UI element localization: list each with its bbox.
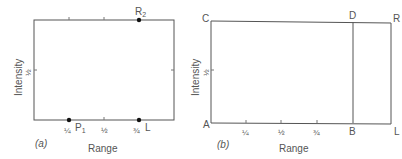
label-b: B bbox=[349, 126, 356, 137]
xtick-quarter: ¼ bbox=[64, 126, 71, 135]
label-l-b: L bbox=[394, 126, 400, 137]
xlabel-b: Range bbox=[279, 143, 309, 154]
point-l bbox=[137, 118, 141, 122]
xtick-half-b: ½ bbox=[278, 128, 285, 137]
label-l: L bbox=[145, 122, 151, 133]
panel-a-frame bbox=[34, 20, 174, 120]
point-r2 bbox=[137, 18, 141, 22]
panel-b-frame bbox=[211, 21, 391, 124]
ylabel-a: Intensity bbox=[13, 59, 24, 96]
point-p1 bbox=[67, 118, 71, 122]
xtick-three-quarter-b: ¾ bbox=[313, 128, 320, 137]
label-d: D bbox=[349, 10, 356, 21]
panel-a: R2 ¼ P1 ½ ¾ L Range (a) Intensity ½ bbox=[13, 6, 174, 154]
caption-b: (b) bbox=[217, 139, 229, 150]
label-a: A bbox=[203, 119, 210, 130]
label-c: C bbox=[202, 13, 209, 24]
xtick-quarter-b: ¼ bbox=[242, 128, 249, 137]
caption-a: (a) bbox=[35, 138, 47, 149]
figure: R2 ¼ P1 ½ ¾ L Range (a) Intensity ½ C D … bbox=[0, 0, 402, 159]
panel-b: C D R A B L ¼ ½ ¾ Range (b) Intensity ½ bbox=[190, 10, 400, 154]
ytick-half-b: ½ bbox=[202, 69, 211, 76]
label-r: R bbox=[393, 13, 400, 24]
xtick-half: ½ bbox=[101, 126, 108, 135]
ylabel-b: Intensity bbox=[190, 59, 201, 96]
ytick-half-a: ½ bbox=[24, 69, 33, 76]
xlabel-a: Range bbox=[88, 143, 118, 154]
xtick-three-quarter: ¾ bbox=[133, 126, 140, 135]
label-r2: R2 bbox=[135, 6, 146, 18]
label-p1: P1 bbox=[75, 122, 86, 134]
